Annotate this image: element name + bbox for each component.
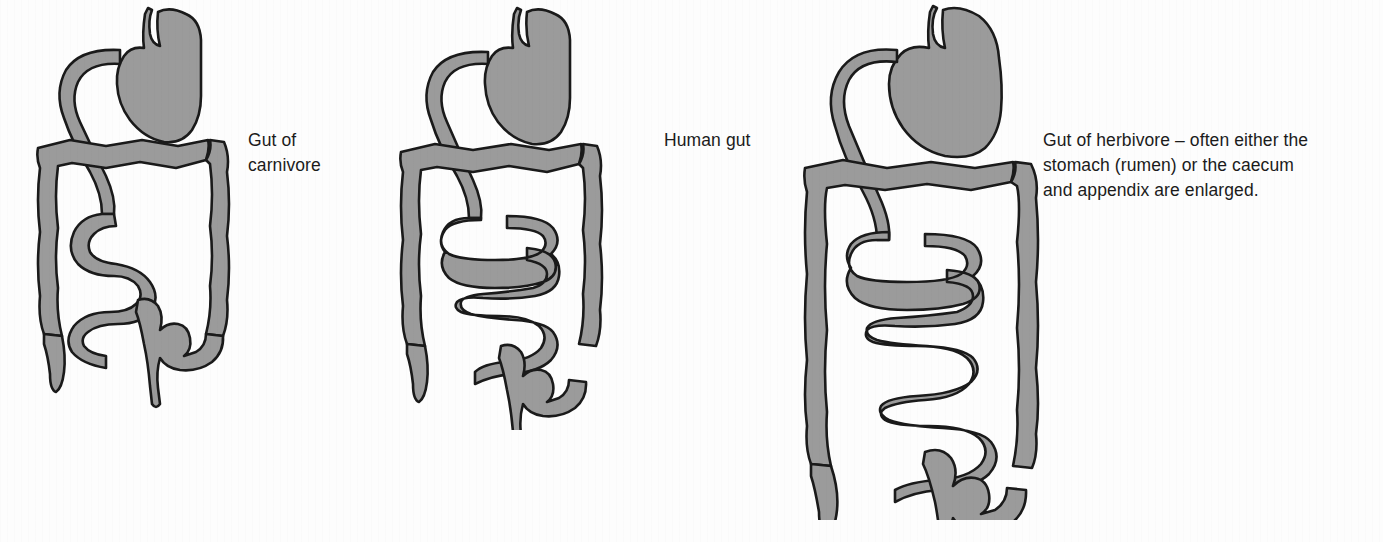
stomach-rumen-herbivore [889,6,1002,157]
stomach-carnivore [117,8,201,142]
descending-colon-carnivore [206,140,229,336]
caecum-appendix-human [407,344,428,402]
caecum-appendix-carnivore [44,334,65,392]
duodenum-carnivore [59,50,120,214]
caption-human: Human gut [664,128,751,153]
small-intestine-carnivore [68,214,155,368]
gut-diagram-carnivore [10,0,250,420]
gut-comparison-diagram: Gut of carnivore Human gut [0,0,1383,542]
caption-herbivore: Gut of herbivore – often either the stom… [1043,128,1373,203]
caption-carnivore: Gut of carnivore [248,128,321,178]
caecum-appendix-herbivore [811,464,837,520]
gut-diagram-herbivore [785,0,1075,520]
descending-colon-human [579,144,602,346]
descending-colon-herbivore [1011,162,1038,468]
duodenum-herbivore [831,49,897,240]
large-intestine-herbivore [804,160,1013,466]
small-intestine-herbivore [847,232,997,502]
large-intestine-carnivore [37,140,208,336]
sigmoid-rectum-herbivore [923,450,1026,520]
duodenum-human [426,52,488,218]
gut-diagram-human [375,0,635,430]
stomach-human [485,8,570,144]
